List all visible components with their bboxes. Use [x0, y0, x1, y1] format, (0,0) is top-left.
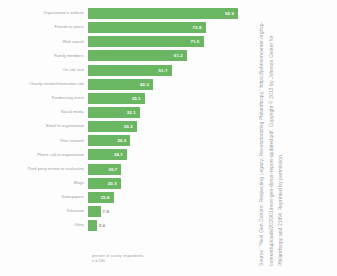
bar-chart-rows: Organization's website92.9Friends or pee… — [0, 8, 252, 234]
bar-track: 92.9 — [88, 8, 252, 19]
bar-value-label: 5.6 — [99, 220, 105, 231]
bar — [88, 50, 187, 61]
bar-row: Phone call to organization24.1 — [0, 149, 252, 160]
bar-track: 5.6 — [88, 220, 252, 231]
bar-row: Other5.6 — [0, 220, 252, 231]
bar-category-label: Friends or peers — [0, 25, 88, 29]
bar-value-label: 40.3 — [140, 79, 149, 90]
bar-track: 30.2 — [88, 121, 252, 132]
bar-value-label: 26.3 — [117, 135, 126, 146]
bar-category-label: Social media — [0, 110, 88, 114]
bar-row: Peer network26.3 — [0, 135, 252, 146]
bar-row: On-site visit51.7 — [0, 65, 252, 76]
bar-track: 51.7 — [88, 65, 252, 76]
bar-track: 40.3 — [88, 79, 252, 90]
bar — [88, 220, 97, 231]
bar-track: 61.2 — [88, 50, 252, 61]
bar-row: Fundraising event35.1 — [0, 93, 252, 104]
bar-track: 24.1 — [88, 149, 252, 160]
bar-value-label: 51.7 — [159, 65, 168, 76]
source-attribution: Source: "Next Gen Donors: Respecting Leg… — [257, 14, 335, 270]
bar-category-label: On-site visit — [0, 68, 88, 72]
bar-category-label: Web search — [0, 40, 88, 44]
bar-row: Charity review/information site40.3 — [0, 79, 252, 90]
chart-footnote: percent of survey respondents n = 280 — [92, 254, 144, 264]
bar-value-label: 32.1 — [127, 107, 136, 118]
bar-category-label: Blogs — [0, 181, 88, 185]
bar-category-label: Family members — [0, 54, 88, 58]
bar-value-label: 15.8 — [101, 192, 110, 203]
bar-row: Third party review or evaluation20.7 — [0, 164, 252, 175]
bar-chart: Organization's website92.9Friends or pee… — [0, 4, 252, 272]
bar-track: 35.1 — [88, 93, 252, 104]
bar-track: 26.3 — [88, 135, 252, 146]
bar-category-label: Other — [0, 223, 88, 227]
bar-value-label: 35.1 — [132, 93, 141, 104]
bar-category-label: Charity review/information site — [0, 82, 88, 86]
bar — [88, 36, 204, 47]
bar-value-label: 71.5 — [191, 36, 200, 47]
bar-category-label: Peer network — [0, 139, 88, 143]
bar-value-label: 20.3 — [108, 178, 117, 189]
bar-category-label: Phone call to organization — [0, 153, 88, 157]
bar — [88, 206, 101, 217]
bar — [88, 22, 206, 33]
bar-value-label: 72.8 — [193, 22, 202, 33]
footnote-sample-size: n = 280 — [92, 259, 144, 264]
bar-track: 7.8 — [88, 206, 252, 217]
bar-track: 71.5 — [88, 36, 252, 47]
bar-value-label: 24.1 — [114, 149, 123, 160]
bar-category-label: Third party review or evaluation — [0, 167, 88, 171]
bar-row: Web search71.5 — [0, 36, 252, 47]
bar-row: Television7.8 — [0, 206, 252, 217]
bar-row: Newspapers15.8 — [0, 192, 252, 203]
bar-row: Social media32.1 — [0, 107, 252, 118]
bar-value-label: 61.2 — [174, 50, 183, 61]
bar-value-label: 30.2 — [124, 121, 133, 132]
bar-row: Email to organization30.2 — [0, 121, 252, 132]
bar-category-label: Fundraising event — [0, 96, 88, 100]
bar — [88, 8, 238, 19]
bar-track: 20.3 — [88, 178, 252, 189]
source-text: Source: "Next Gen Donors: Respecting Leg… — [257, 14, 286, 266]
bar-row: Blogs20.3 — [0, 178, 252, 189]
chart-screenshot: Organization's website92.9Friends or pee… — [0, 0, 337, 276]
bar-row: Organization's website92.9 — [0, 8, 252, 19]
bar-value-label: 20.7 — [108, 164, 117, 175]
bar-track: 15.8 — [88, 192, 252, 203]
bar-category-label: Television — [0, 209, 88, 213]
bar-row: Friends or peers72.8 — [0, 22, 252, 33]
bar-category-label: Newspapers — [0, 195, 88, 199]
bar-category-label: Organization's website — [0, 11, 88, 15]
bar-track: 32.1 — [88, 107, 252, 118]
bar-category-label: Email to organization — [0, 124, 88, 128]
bar-track: 72.8 — [88, 22, 252, 33]
bar-row: Family members61.2 — [0, 50, 252, 61]
bar-track: 20.7 — [88, 164, 252, 175]
bar-value-label: 7.8 — [103, 206, 109, 217]
bar-value-label: 92.9 — [225, 8, 234, 19]
